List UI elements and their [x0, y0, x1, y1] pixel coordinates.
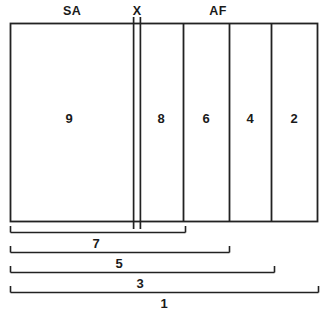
diagram-canvas: SA X AF 9 8 6 4 2 7 5 3 1: [0, 0, 329, 312]
region-label-x: X: [133, 5, 142, 18]
dimension-bracket-1: [11, 286, 319, 293]
dimension-label-1: 1: [160, 297, 167, 310]
dimension-label-5: 5: [115, 257, 122, 270]
region-label-af: AF: [209, 5, 226, 18]
dimension-label-7: 7: [92, 237, 99, 250]
cell-label-8: 8: [157, 112, 164, 125]
dimension-bracket-3: [11, 266, 275, 273]
diagram-vector-layer: [0, 0, 329, 312]
cell-label-9: 9: [65, 112, 72, 125]
dimension-bracket-7: [11, 226, 186, 233]
region-label-sa: SA: [63, 5, 81, 18]
cell-label-2: 2: [290, 112, 297, 125]
dimension-label-3: 3: [136, 277, 143, 290]
dimension-bracket-5: [11, 246, 230, 253]
cell-label-6: 6: [202, 112, 209, 125]
cell-label-4: 4: [246, 112, 253, 125]
